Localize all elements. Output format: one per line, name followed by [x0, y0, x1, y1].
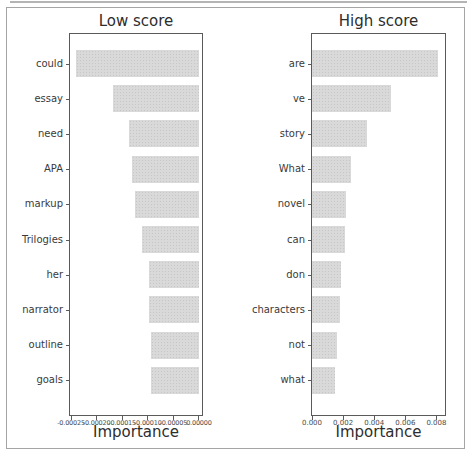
y-tick	[66, 310, 70, 311]
y-tick	[308, 380, 312, 381]
y-tick-label-markup: markup	[0, 197, 63, 211]
bar-apa	[132, 156, 199, 183]
y-tick-label-are: are	[220, 57, 305, 71]
y-tick	[66, 134, 70, 135]
y-tick-label-could: could	[0, 57, 63, 71]
bar-need	[129, 120, 199, 147]
bar-don	[312, 261, 341, 288]
y-tick-label-what: what	[220, 373, 305, 387]
y-tick-label-not: not	[220, 338, 305, 352]
bar-not	[312, 332, 337, 359]
y-tick-label-goals: goals	[0, 373, 63, 387]
y-tick	[308, 275, 312, 276]
bar-novel	[312, 191, 346, 218]
bar-trilogies	[142, 226, 199, 253]
bar-what	[312, 156, 351, 183]
bar-what	[312, 367, 335, 394]
y-tick	[308, 240, 312, 241]
y-tick	[308, 134, 312, 135]
y-tick	[66, 275, 70, 276]
bar-her	[149, 261, 199, 288]
y-tick-label-what: What	[220, 162, 305, 176]
y-tick-label-need: need	[0, 127, 63, 141]
y-tick	[66, 169, 70, 170]
y-tick	[66, 99, 70, 100]
y-tick	[308, 64, 312, 65]
y-tick	[66, 345, 70, 346]
y-tick	[308, 169, 312, 170]
y-tick-label-ve: ve	[220, 92, 305, 106]
y-tick	[66, 380, 70, 381]
y-tick	[308, 204, 312, 205]
bar-ve	[312, 85, 391, 112]
y-tick-label-her: her	[0, 268, 63, 282]
bar-characters	[312, 296, 340, 323]
high-score-chart-title: High score	[311, 13, 446, 30]
y-tick	[66, 204, 70, 205]
figure-canvas: Low score High score couldessayneedAPAma…	[0, 0, 467, 461]
y-tick	[308, 310, 312, 311]
y-tick-label-characters: characters	[220, 303, 305, 317]
y-tick	[66, 240, 70, 241]
bar-could	[76, 50, 199, 77]
bar-can	[312, 226, 345, 253]
y-tick-label-don: don	[220, 268, 305, 282]
image-top-edge-line	[10, 1, 467, 3]
low-score-axes: couldessayneedAPAmarkupTrilogieshernarra…	[69, 33, 203, 416]
high-score-axes: arevestoryWhatnovelcandoncharactersnotwh…	[311, 33, 446, 416]
bar-narrator	[149, 296, 199, 323]
y-tick-label-essay: essay	[0, 92, 63, 106]
bar-markup	[135, 191, 199, 218]
y-tick-label-apa: APA	[0, 162, 63, 176]
bar-goals	[151, 367, 199, 394]
bar-story	[312, 120, 367, 147]
y-tick	[308, 345, 312, 346]
y-tick-label-trilogies: Trilogies	[0, 233, 63, 247]
low-score-xaxis-label: Importance	[69, 424, 203, 440]
y-tick	[308, 99, 312, 100]
high-score-xaxis-label: Importance	[311, 424, 446, 440]
y-tick	[66, 64, 70, 65]
y-tick-label-novel: novel	[220, 197, 305, 211]
bar-essay	[113, 85, 198, 112]
bar-are	[312, 50, 438, 77]
y-tick-label-outline: outline	[0, 338, 63, 352]
y-tick-label-narrator: narrator	[0, 303, 63, 317]
bar-outline	[151, 332, 199, 359]
low-score-chart-title: Low score	[69, 13, 203, 30]
y-tick-label-story: story	[220, 127, 305, 141]
y-tick-label-can: can	[220, 233, 305, 247]
